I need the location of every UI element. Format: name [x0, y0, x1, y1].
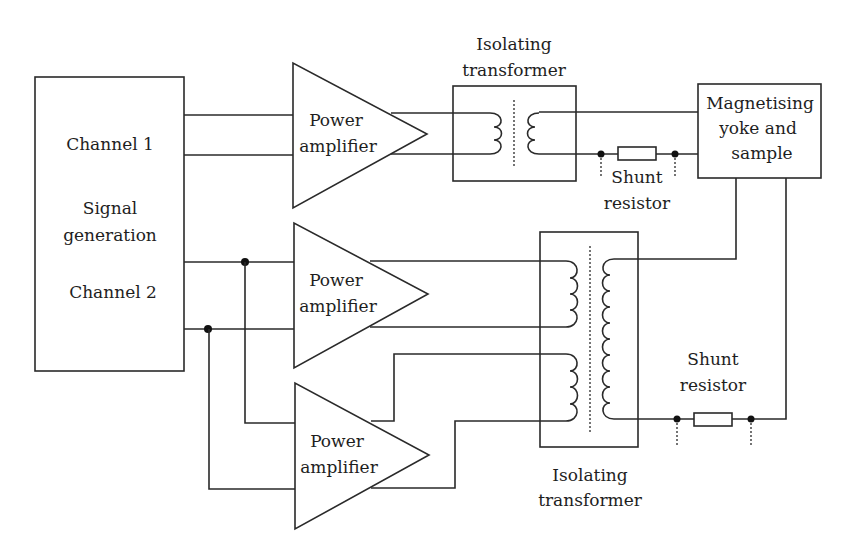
shunt-bottom-label-2: resistor	[680, 375, 747, 395]
junction-dot	[672, 151, 679, 158]
channel2-label: Channel 2	[69, 282, 157, 302]
yoke-label-3: sample	[731, 143, 792, 163]
magnetising-yoke-block: Magnetising yoke and sample	[698, 84, 821, 178]
junction-dot	[674, 416, 681, 423]
top-secondary-circuit: Shunt resistor	[539, 112, 698, 213]
amp-middle-label-1: Power	[309, 270, 364, 290]
power-amplifier-middle: Power amplifier	[294, 223, 428, 368]
amp-middle-output-wires	[370, 261, 566, 327]
shunt-resistor-bottom	[694, 413, 732, 426]
shunt-bottom-label-1: Shunt	[687, 349, 738, 369]
junction-dot	[748, 416, 755, 423]
amp-top-label-1: Power	[309, 110, 364, 130]
yoke-label-1: Magnetising	[706, 93, 814, 113]
transformer-bottom-label-1: Isolating	[552, 465, 627, 485]
power-amplifier-top: Power amplifier	[293, 63, 427, 208]
circuit-diagram: Channel 1 Signal generation Channel 2 Po…	[0, 0, 851, 560]
shunt-top-label-2: resistor	[604, 193, 671, 213]
isolating-transformer-bottom: Isolating transformer	[538, 232, 643, 510]
junction-dot	[204, 325, 212, 333]
signal-generator-block: Channel 1 Signal generation Channel 2	[35, 77, 184, 371]
junction-dot	[598, 151, 605, 158]
generation-label: generation	[63, 225, 157, 245]
power-amplifier-bottom: Power amplifier	[295, 383, 429, 529]
amp-bottom-label-1: Power	[310, 431, 365, 451]
shunt-top-label-1: Shunt	[611, 167, 662, 187]
amp-top-label-2: amplifier	[299, 136, 377, 156]
amp-bottom-label-2: amplifier	[300, 457, 378, 477]
bottom-secondary-circuit: Shunt resistor	[614, 178, 786, 445]
amp-middle-label-2: amplifier	[299, 296, 377, 316]
signal-label: Signal	[83, 198, 138, 218]
transformer-bottom-label-2: transformer	[538, 490, 643, 510]
transformer-top-label-2: transformer	[462, 60, 567, 80]
channel2-wires	[184, 258, 295, 489]
channel1-wires	[184, 115, 293, 155]
amp-top-output-wires	[391, 113, 490, 154]
transformer-top-label-1: Isolating	[476, 34, 551, 54]
yoke-label-2: yoke and	[718, 118, 797, 138]
shunt-resistor-top	[618, 147, 656, 160]
isolating-transformer-top: Isolating transformer	[453, 34, 576, 181]
amp-bottom-output-wires	[371, 354, 566, 488]
channel1-label: Channel 1	[66, 134, 154, 154]
